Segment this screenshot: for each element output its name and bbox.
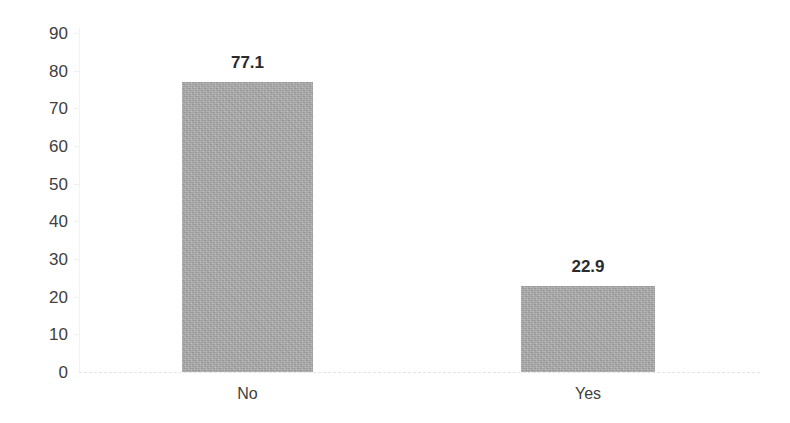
x-axis-label-no: No xyxy=(182,386,313,402)
y-axis-tick-90: 90 xyxy=(0,25,68,42)
y-axis-tick-mark xyxy=(74,146,79,147)
bar-yes[interactable] xyxy=(521,286,655,372)
bar-chart: 0102030405060708090 77.122.9 NoYes xyxy=(0,0,790,423)
y-axis-tick-mark xyxy=(74,334,79,335)
bar-value-label-yes: 22.9 xyxy=(521,258,655,275)
y-axis-tick-mark xyxy=(74,221,79,222)
y-axis-tick-mark xyxy=(74,184,79,185)
bar-no[interactable] xyxy=(182,82,313,372)
y-axis-tick-20: 20 xyxy=(0,288,68,305)
y-axis-tick-0: 0 xyxy=(0,364,68,381)
y-axis-tick-labels: 0102030405060708090 xyxy=(0,0,68,423)
y-axis-tick-10: 10 xyxy=(0,326,68,343)
y-axis-tick-70: 70 xyxy=(0,100,68,117)
y-axis-tick-30: 30 xyxy=(0,251,68,268)
y-axis-tick-80: 80 xyxy=(0,62,68,79)
y-axis-tick-mark xyxy=(74,297,79,298)
y-axis-tick-60: 60 xyxy=(0,138,68,155)
bar-value-label-no: 77.1 xyxy=(182,54,313,71)
y-axis-tick-mark xyxy=(74,33,79,34)
y-axis-tick-50: 50 xyxy=(0,175,68,192)
y-axis-tick-mark xyxy=(74,259,79,260)
y-axis-tick-mark xyxy=(74,71,79,72)
y-axis-tick-mark xyxy=(74,108,79,109)
y-axis-tick-40: 40 xyxy=(0,213,68,230)
x-axis-label-yes: Yes xyxy=(521,386,655,402)
